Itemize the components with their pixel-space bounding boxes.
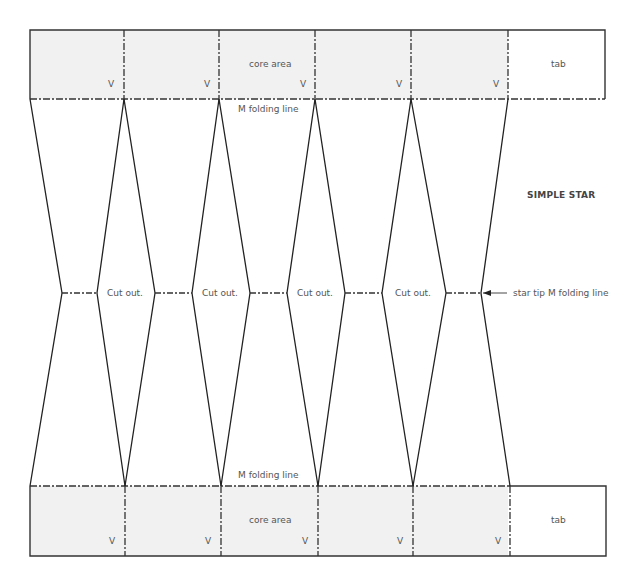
star-tip-fold-label: star tip M folding line: [513, 288, 608, 298]
bottom-fold-line-label: M folding line: [238, 470, 299, 480]
bottom-tab-label: tab: [551, 515, 566, 525]
cut-out-label-4: Cut out.: [395, 288, 431, 298]
top-v-label-2: V: [204, 79, 210, 89]
cut-out-label-3: Cut out.: [297, 288, 333, 298]
top-v-label-4: V: [396, 79, 402, 89]
top-v-label-3: V: [300, 79, 306, 89]
cut-out-label-1: Cut out.: [107, 288, 143, 298]
bottom-v-label-4: V: [397, 536, 403, 546]
arrow-left-icon: [483, 290, 507, 296]
diagram-title: SIMPLE STAR: [527, 190, 595, 200]
bottom-v-label-5: V: [495, 536, 501, 546]
bottom-v-label-1: V: [109, 536, 115, 546]
top-fold-line-label: M folding line: [238, 104, 299, 114]
cut-out-label-2: Cut out.: [202, 288, 238, 298]
top-v-label-1: V: [108, 79, 114, 89]
top-core-area-label: core area: [249, 59, 291, 69]
bottom-core-area-label: core area: [249, 515, 291, 525]
bottom-v-label-2: V: [205, 536, 211, 546]
top-tab-label: tab: [551, 59, 566, 69]
bottom-v-label-3: V: [302, 536, 308, 546]
top-v-label-5: V: [493, 79, 499, 89]
